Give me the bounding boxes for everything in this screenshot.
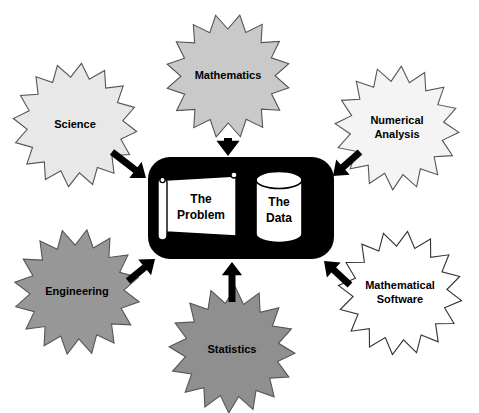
problem-label-line-2: Problem — [177, 208, 225, 222]
problem-pin-right-icon — [231, 172, 237, 178]
central-container[interactable]: The Problem The Data — [148, 157, 334, 259]
burst-statistics[interactable]: Statistics — [169, 287, 295, 413]
problem-scroll-roll — [158, 178, 167, 240]
burst-mathematics[interactable]: Mathematics — [167, 15, 289, 137]
arrow-mathematics-to-core — [216, 138, 239, 156]
burst-mathematical-software[interactable]: MathematicalSoftware — [338, 231, 461, 354]
burst-mathematical-software-label-line-2: Software — [377, 293, 423, 305]
burst-mathematics-label-line-1: Mathematics — [195, 69, 262, 81]
burst-numerical-analysis-label-line-1: Numerical — [370, 114, 423, 126]
data-cylinder-top — [256, 172, 302, 189]
arrow-engineering-to-core — [126, 259, 155, 284]
burst-statistics-label-line-1: Statistics — [208, 343, 257, 355]
diagram-svg: ScienceMathematicsNumericalAnalysisEngin… — [0, 0, 479, 413]
data-label-line-1: The — [268, 195, 290, 209]
diagram-canvas: ScienceMathematicsNumericalAnalysisEngin… — [0, 0, 479, 413]
burst-engineering[interactable]: Engineering — [15, 230, 139, 354]
data-node[interactable]: The Data — [256, 172, 302, 243]
burst-numerical-analysis-label-line-2: Analysis — [374, 128, 419, 140]
problem-node[interactable]: The Problem — [158, 172, 237, 240]
problem-pin-left-icon — [160, 177, 165, 182]
burst-science[interactable]: Science — [13, 63, 136, 186]
burst-mathematical-software-label-line-1: Mathematical — [365, 279, 435, 291]
burst-engineering-label-line-1: Engineering — [45, 285, 109, 297]
data-label-line-2: Data — [266, 211, 292, 225]
burst-numerical-analysis[interactable]: NumericalAnalysis — [335, 66, 459, 190]
burst-science-label-line-1: Science — [54, 118, 96, 130]
problem-label-line-1: The — [190, 192, 212, 206]
